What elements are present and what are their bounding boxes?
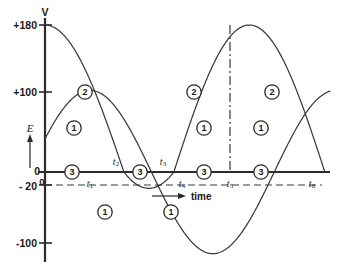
curve-marker: 2 xyxy=(265,85,279,99)
y-tick-label-minus-100: -100 xyxy=(16,237,37,249)
time-axis-arrow-head xyxy=(178,193,186,199)
marker-label-1e: 1 xyxy=(258,123,263,133)
marker-label-2a: 2 xyxy=(82,87,87,97)
y-tick-label-180: +180 xyxy=(13,19,37,31)
origin-label: 0 xyxy=(39,176,44,187)
x-tick-label-t1: t1 xyxy=(87,178,94,191)
e-axis-label: E xyxy=(26,122,34,134)
t6-sub: 6 xyxy=(312,182,316,190)
marker-label-3d: 3 xyxy=(258,167,263,177)
curve-marker: 1 xyxy=(164,205,178,219)
svg-text:t3: t3 xyxy=(160,156,167,169)
y-tick-label-100: +100 xyxy=(13,86,37,98)
t5-sub: 5 xyxy=(230,182,234,190)
marker-label-1b: 1 xyxy=(102,207,107,217)
curve-marker: 1 xyxy=(98,205,112,219)
marker-label-1d: 1 xyxy=(201,123,206,133)
t3-sub: 3 xyxy=(163,160,167,168)
t2-sub: 2 xyxy=(116,160,120,168)
x-tick-label-t5: t5 xyxy=(227,178,234,191)
y-axis-title: V xyxy=(41,6,48,18)
curve-marker: 3 xyxy=(197,165,211,179)
curve-marker: 3 xyxy=(65,165,79,179)
time-axis-label: time xyxy=(191,191,212,202)
marker-label-1c: 1 xyxy=(168,207,173,217)
voltage-time-chart-figure: V +180 +100 0 - 20 -100 E 0 time t1 t2 t… xyxy=(0,0,344,274)
t1-sub: 1 xyxy=(90,182,94,190)
curve-marker: 2 xyxy=(78,85,92,99)
x-tick-label-t4: t4 xyxy=(179,178,186,191)
curve-marker: 2 xyxy=(187,85,201,99)
svg-text:t4: t4 xyxy=(179,178,186,191)
t4-sub: 4 xyxy=(182,182,186,190)
curve-marker: 1 xyxy=(197,121,211,135)
marker-label-3c: 3 xyxy=(201,167,206,177)
svg-text:t6: t6 xyxy=(309,178,316,191)
y-tick-label-minus-20: - 20 xyxy=(19,180,37,192)
marker-label-3a: 3 xyxy=(69,167,74,177)
chart-canvas: V +180 +100 0 - 20 -100 E 0 time t1 t2 t… xyxy=(0,0,344,274)
marker-label-1a: 1 xyxy=(71,123,76,133)
svg-text:t1: t1 xyxy=(87,178,94,191)
x-tick-label-t3: t3 xyxy=(160,156,167,169)
curve-marker: 1 xyxy=(67,121,81,135)
marker-label-3b: 3 xyxy=(137,167,142,177)
marker-label-2b: 2 xyxy=(191,87,196,97)
marker-label-2c: 2 xyxy=(269,87,274,97)
curve-marker: 1 xyxy=(254,121,268,135)
curve-marker: 3 xyxy=(254,165,268,179)
curve-2-generated xyxy=(45,25,325,188)
svg-text:t5: t5 xyxy=(227,178,234,191)
e-axis-arrow-head xyxy=(27,134,33,142)
x-tick-label-t6: t6 xyxy=(309,178,316,191)
curve-marker: 3 xyxy=(133,165,147,179)
